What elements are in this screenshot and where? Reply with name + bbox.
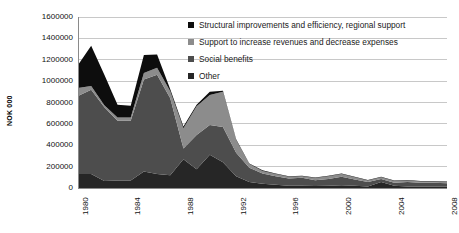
legend-swatch-icon: [188, 73, 194, 79]
stacked-area-chart: NOK 000 02000004000006000008000001000000…: [0, 0, 459, 233]
chart-legend: Structural improvements and efficiency, …: [188, 17, 454, 85]
area-series: [78, 75, 447, 187]
legend-swatch-icon: [188, 22, 194, 28]
legend-swatch-icon: [188, 56, 194, 62]
legend-item[interactable]: Support to increase revenues and decreas…: [188, 34, 454, 50]
legend-item[interactable]: Other: [188, 68, 454, 84]
legend-swatch-icon: [188, 39, 194, 45]
legend-item-label: Support to increase revenues and decreas…: [199, 38, 398, 47]
legend-item-label: Structural improvements and efficiency, …: [199, 21, 405, 30]
legend-item-label: Social benefits: [199, 55, 253, 64]
legend-item[interactable]: Social benefits: [188, 51, 454, 67]
legend-item-label: Other: [199, 72, 220, 81]
legend-item[interactable]: Structural improvements and efficiency, …: [188, 17, 454, 33]
